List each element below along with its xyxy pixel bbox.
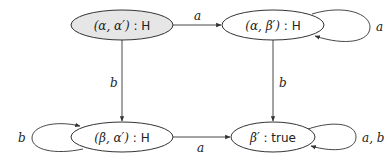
node-label-math: (α, β′) [245,19,280,33]
node-alpha-alphaprime: (α, α′) : H [71,10,173,40]
state-diagram: a a b b b a a, b (α, α′) : H (α, β′) : H [0,0,391,162]
edge-label: b [110,76,118,90]
node-label-sep: : [129,131,141,145]
svg-text:(β, α′) : H: (β, α′) : H [94,131,149,145]
edge-n4-self: a, b [308,124,384,150]
node-label-sep: : [280,19,292,33]
node-beta-alphaprime: (β, α′) : H [71,122,173,152]
edge-n2-n4: b [273,40,287,121]
edge-label: a [194,9,201,23]
node-label-math: β′ [249,131,260,145]
node-label-sep: : [130,19,142,33]
edge-label: a [376,20,383,34]
edge-n1-n2: a [173,9,221,25]
node-label-value: H [292,19,301,33]
node-label-value: true [271,131,296,145]
node-label-sep: : [260,131,272,145]
svg-text:(α, α′) : H: (α, α′) : H [94,19,151,33]
edge-label: a [197,141,204,155]
node-label-value: H [141,19,150,33]
edge-n1-n3: b [110,40,122,121]
edge-n3-n4: a [173,137,230,155]
node-alpha-betaprime: (α, β′) : H [222,10,324,40]
svg-text:β′ : true: β′ : true [249,131,296,145]
edge-label: b [279,76,287,90]
edge-label: a, b [362,131,384,145]
node-betaprime-true: β′ : true [231,122,315,152]
svg-text:(α, β′) : H: (α, β′) : H [245,19,300,33]
edge-label: b [18,131,26,145]
node-label-value: H [141,131,150,145]
node-label-math: (β, α′) [94,131,129,145]
node-label-math: (α, α′) [94,19,130,33]
